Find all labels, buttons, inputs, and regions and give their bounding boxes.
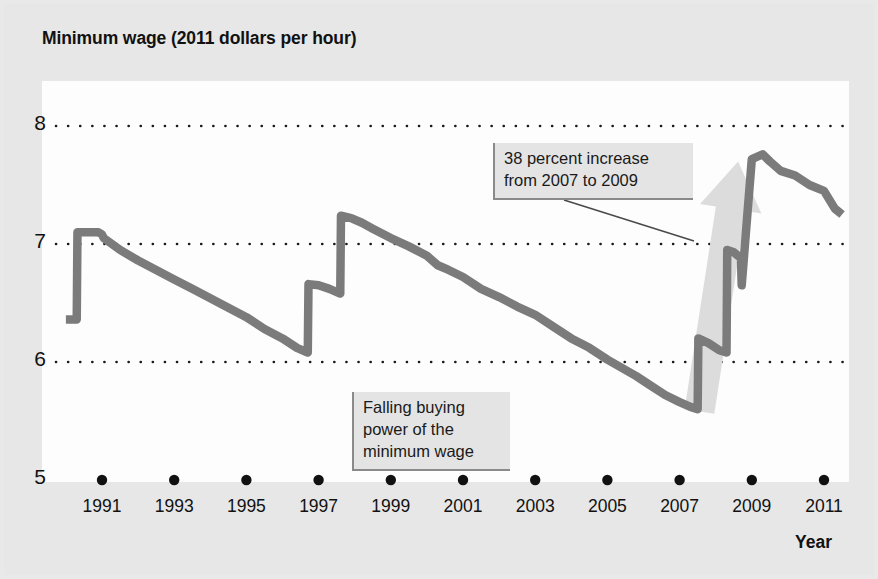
x-tick-label: 2011 xyxy=(789,496,859,517)
y-tick-label: 5 xyxy=(20,465,46,489)
x-tick-label: 2005 xyxy=(572,496,642,517)
x-tick-label: 1999 xyxy=(356,496,426,517)
y-tick-label: 8 xyxy=(20,111,46,135)
x-tick-label: 2009 xyxy=(717,496,787,517)
annotation-increase: 38 percent increase from 2007 to 2009 xyxy=(493,143,693,200)
figure-card: Minimum wage (2011 dollars per hour) 8 7… xyxy=(0,0,878,579)
x-tick-label: 1995 xyxy=(211,496,281,517)
x-tick-label: 1997 xyxy=(284,496,354,517)
x-tick-label: 2001 xyxy=(428,496,498,517)
x-tick-label: 2007 xyxy=(645,496,715,517)
figure-inner: Minimum wage (2011 dollars per hour) 8 7… xyxy=(4,4,874,575)
y-tick-label: 7 xyxy=(20,229,46,253)
page-title: Minimum wage (2011 dollars per hour) xyxy=(42,28,356,49)
x-tick-label: 1993 xyxy=(139,496,209,517)
x-tick-label: 2003 xyxy=(500,496,570,517)
y-tick-label: 6 xyxy=(20,347,46,371)
x-axis-title: Year xyxy=(795,532,832,553)
annotation-falling: Falling buying power of the minimum wage xyxy=(352,392,510,471)
x-tick-label: 1991 xyxy=(67,496,137,517)
